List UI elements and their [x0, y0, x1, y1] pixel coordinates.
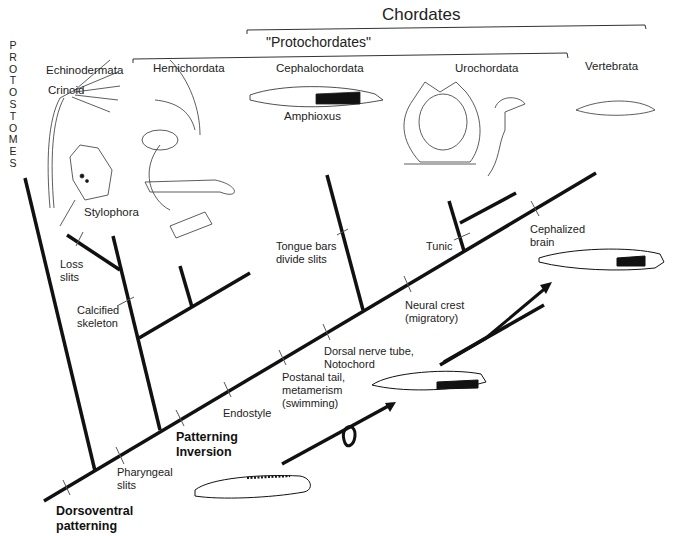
character-dorsal-nerve-tube: Dorsal nerve tube, Notochord	[324, 345, 414, 371]
character-neural-crest: Neural crest (migratory)	[405, 299, 464, 325]
character-calcified-skeleton: Calcified skeleton	[77, 304, 119, 330]
tree-svg	[0, 0, 686, 536]
vertebrate-larva-illustration	[576, 101, 655, 115]
taxon-crinoid: Crinoid	[48, 84, 84, 97]
character-loss-slits: Loss slits	[60, 258, 83, 284]
character-endostyle: Endostyle	[223, 407, 271, 420]
taxon-amphioxus: Amphioxus	[284, 110, 341, 123]
chordates-bracket	[247, 25, 646, 34]
chordates-title: Chordates	[382, 8, 460, 21]
taxon-urochordata: Urochordata	[455, 62, 518, 75]
taxon-cephalochordata: Cephalochordata	[276, 62, 364, 75]
taxon-hemichordata: Hemichordata	[153, 62, 225, 75]
taxon-stylophora: Stylophora	[84, 206, 139, 219]
character-dorsoventral-patterning: Dorsoventral patterning	[56, 504, 133, 534]
urochordate-illustration	[404, 82, 525, 176]
character-cephalized-brain: Cephalized brain	[530, 223, 585, 249]
protochordates-subtitle: "Protochordates"	[266, 36, 371, 49]
hemichordate-illustration	[142, 60, 234, 238]
worm-ancestor-illustration	[195, 476, 310, 499]
character-pharyngeal-slits: Pharyngeal slits	[117, 466, 173, 492]
chordate-ancestor-illustration	[372, 371, 486, 390]
rotation-loop-icon	[343, 427, 355, 446]
taxon-vertebrata: Vertebrata	[585, 60, 638, 73]
character-tunic: Tunic	[426, 240, 453, 253]
character-postanal-tail: Postanal tail, metamerism (swimming)	[282, 371, 345, 410]
taxon-echinodermata: Echinodermata	[46, 64, 123, 77]
character-tongue-bars: Tongue bars divide slits	[276, 240, 337, 266]
primitive-vertebrate-illustration	[539, 249, 664, 270]
amphioxus-illustration	[250, 87, 383, 107]
protostomes-label: P R O T O S T O M E S	[6, 40, 20, 170]
character-patterning-inversion: Patterning Inversion	[176, 430, 238, 460]
phylogeny-diagram: Chordates "Protochordates" P R O T O S T…	[0, 0, 686, 536]
tree-branches	[25, 173, 596, 501]
